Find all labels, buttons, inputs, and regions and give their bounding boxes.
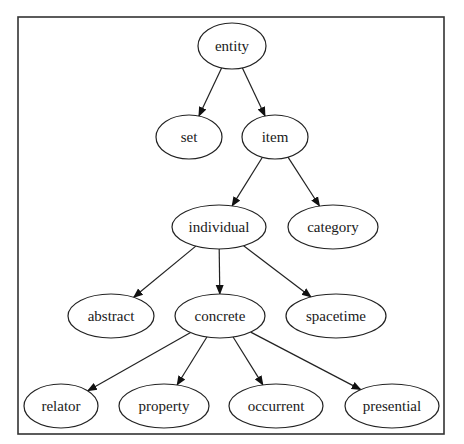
node-label: entity: [215, 38, 250, 54]
node-presential: presential: [345, 384, 439, 428]
edge-concrete-to-relator: [88, 333, 191, 391]
arrow-icon: [219, 249, 220, 294]
nodes-layer: entitysetitemindividualcategoryabstractc…: [24, 23, 439, 428]
node-label: property: [139, 398, 190, 414]
node-label: category: [307, 219, 359, 235]
node-label: set: [181, 129, 198, 145]
edge-item-to-category: [288, 157, 320, 206]
node-label: concrete: [195, 308, 246, 324]
edge-concrete-to-occurrent: [233, 337, 263, 385]
edge-concrete-to-property: [177, 337, 207, 385]
node-label: presential: [363, 398, 421, 414]
node-set: set: [156, 115, 222, 159]
arrow-icon: [251, 332, 361, 390]
node-label: item: [262, 129, 289, 145]
node-label: abstract: [88, 308, 135, 324]
node-category: category: [288, 205, 378, 249]
edge-entity-to-set: [199, 68, 222, 116]
edge-concrete-to-presential: [251, 332, 361, 390]
arrow-icon: [177, 337, 207, 385]
arrow-icon: [134, 246, 196, 297]
arrow-icon: [88, 333, 191, 391]
arrow-icon: [199, 68, 222, 116]
edge-entity-to-item: [242, 68, 265, 116]
edge-individual-to-spacetime: [244, 246, 311, 297]
node-label: relator: [41, 398, 80, 414]
node-relator: relator: [24, 384, 98, 428]
arrow-icon: [232, 157, 262, 206]
node-label: individual: [189, 219, 250, 235]
node-occurrent: occurrent: [229, 384, 323, 428]
arrow-icon: [244, 246, 311, 297]
node-label: occurrent: [248, 398, 305, 414]
arrow-icon: [233, 337, 263, 385]
node-label: spacetime: [306, 308, 366, 324]
node-individual: individual: [172, 205, 266, 249]
ontology-tree-diagram: entitysetitemindividualcategoryabstractc…: [0, 0, 464, 444]
node-concrete: concrete: [175, 294, 265, 338]
node-abstract: abstract: [68, 294, 154, 338]
arrow-icon: [288, 157, 320, 206]
arrow-icon: [242, 68, 265, 116]
node-property: property: [119, 384, 209, 428]
edge-individual-to-abstract: [134, 246, 196, 297]
node-entity: entity: [198, 23, 266, 69]
edge-item-to-individual: [232, 157, 262, 206]
node-spacetime: spacetime: [286, 294, 386, 338]
edge-individual-to-concrete: [219, 249, 220, 294]
node-item: item: [242, 115, 308, 159]
